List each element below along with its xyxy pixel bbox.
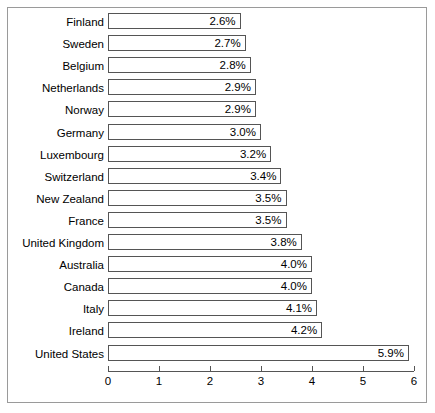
category-label: Ireland: [0, 323, 104, 339]
bar-row: United States5.9%: [0, 345, 435, 367]
bar-value-label: 3.2%: [240, 147, 266, 161]
bar-row: Canada4.0%: [0, 278, 435, 300]
bar: 4.1%: [108, 300, 317, 316]
bar-value-label: 4.0%: [281, 279, 307, 293]
bar-value-label: 3.0%: [230, 125, 256, 139]
category-label: Italy: [0, 301, 104, 317]
x-axis-tick: [210, 366, 211, 371]
category-label: Belgium: [0, 58, 104, 74]
category-label: Netherlands: [0, 80, 104, 96]
x-axis-line: [108, 371, 414, 372]
bar-row: Sweden2.7%: [0, 35, 435, 57]
category-label: Canada: [0, 279, 104, 295]
category-label: Finland: [0, 14, 104, 30]
x-axis-tick: [159, 366, 160, 371]
category-label: United States: [0, 346, 104, 362]
category-label: New Zealand: [0, 191, 104, 207]
x-axis-tick-label: 3: [249, 375, 273, 387]
x-axis-tick: [414, 366, 415, 371]
category-label: Luxembourg: [0, 147, 104, 163]
x-axis-tick: [363, 366, 364, 371]
bar-value-label: 4.1%: [286, 301, 312, 315]
bar-value-label: 4.2%: [291, 323, 317, 337]
x-axis-tick: [108, 366, 109, 371]
category-label: Switzerland: [0, 169, 104, 185]
bar: 2.9%: [108, 101, 256, 117]
bar-row: Ireland4.2%: [0, 322, 435, 344]
x-axis-tick-label: 1: [147, 375, 171, 387]
bar: 3.5%: [108, 212, 287, 228]
x-axis-tick-label: 6: [402, 375, 426, 387]
bar: 3.4%: [108, 168, 281, 184]
bar-value-label: 3.8%: [271, 235, 297, 249]
category-label: Germany: [0, 125, 104, 141]
bar-row: Finland2.6%: [0, 13, 435, 35]
bar-chart-plot-area: Finland2.6%Sweden2.7%Belgium2.8%Netherla…: [0, 0, 435, 413]
bar-value-label: 3.5%: [255, 191, 281, 205]
bar-row: Belgium2.8%: [0, 57, 435, 79]
bar-row: Switzerland3.4%: [0, 168, 435, 190]
bar-row: Italy4.1%: [0, 300, 435, 322]
bar: 4.2%: [108, 322, 322, 338]
bar: 4.0%: [108, 256, 312, 272]
category-label: United Kingdom: [0, 235, 104, 251]
bar-row: Norway2.9%: [0, 101, 435, 123]
bar-value-label: 5.9%: [378, 346, 404, 360]
bar: 3.5%: [108, 190, 287, 206]
x-axis-tick: [261, 366, 262, 371]
category-label: Australia: [0, 257, 104, 273]
bar-row: Luxembourg3.2%: [0, 146, 435, 168]
x-axis-tick-label: 2: [198, 375, 222, 387]
x-axis-tick-label: 0: [96, 375, 120, 387]
bar-value-label: 3.5%: [255, 213, 281, 227]
bar: 2.9%: [108, 79, 256, 95]
bar-value-label: 2.8%: [220, 58, 246, 72]
bar: 3.8%: [108, 234, 302, 250]
bar-value-label: 2.6%: [209, 14, 235, 28]
bar: 2.8%: [108, 57, 251, 73]
bar: 2.7%: [108, 35, 246, 51]
category-label: France: [0, 213, 104, 229]
category-label: Sweden: [0, 36, 104, 52]
bar-row: Netherlands2.9%: [0, 79, 435, 101]
bar: 3.0%: [108, 124, 261, 140]
x-axis-tick-label: 4: [300, 375, 324, 387]
bar-row: New Zealand3.5%: [0, 190, 435, 212]
bar: 3.2%: [108, 146, 271, 162]
bar-value-label: 4.0%: [281, 257, 307, 271]
bar-row: France3.5%: [0, 212, 435, 234]
bar: 5.9%: [108, 345, 409, 361]
bar: 4.0%: [108, 278, 312, 294]
bar-value-label: 3.4%: [250, 169, 276, 183]
x-axis-tick-label: 5: [351, 375, 375, 387]
x-axis-tick: [312, 366, 313, 371]
bar-value-label: 2.9%: [225, 102, 251, 116]
category-label: Norway: [0, 102, 104, 118]
bar-row: Australia4.0%: [0, 256, 435, 278]
bar-value-label: 2.7%: [214, 36, 240, 50]
bar-value-label: 2.9%: [225, 80, 251, 94]
bar-row: Germany3.0%: [0, 124, 435, 146]
bar-row: United Kingdom3.8%: [0, 234, 435, 256]
chart-figure: Finland2.6%Sweden2.7%Belgium2.8%Netherla…: [0, 0, 435, 413]
bar: 2.6%: [108, 13, 241, 29]
